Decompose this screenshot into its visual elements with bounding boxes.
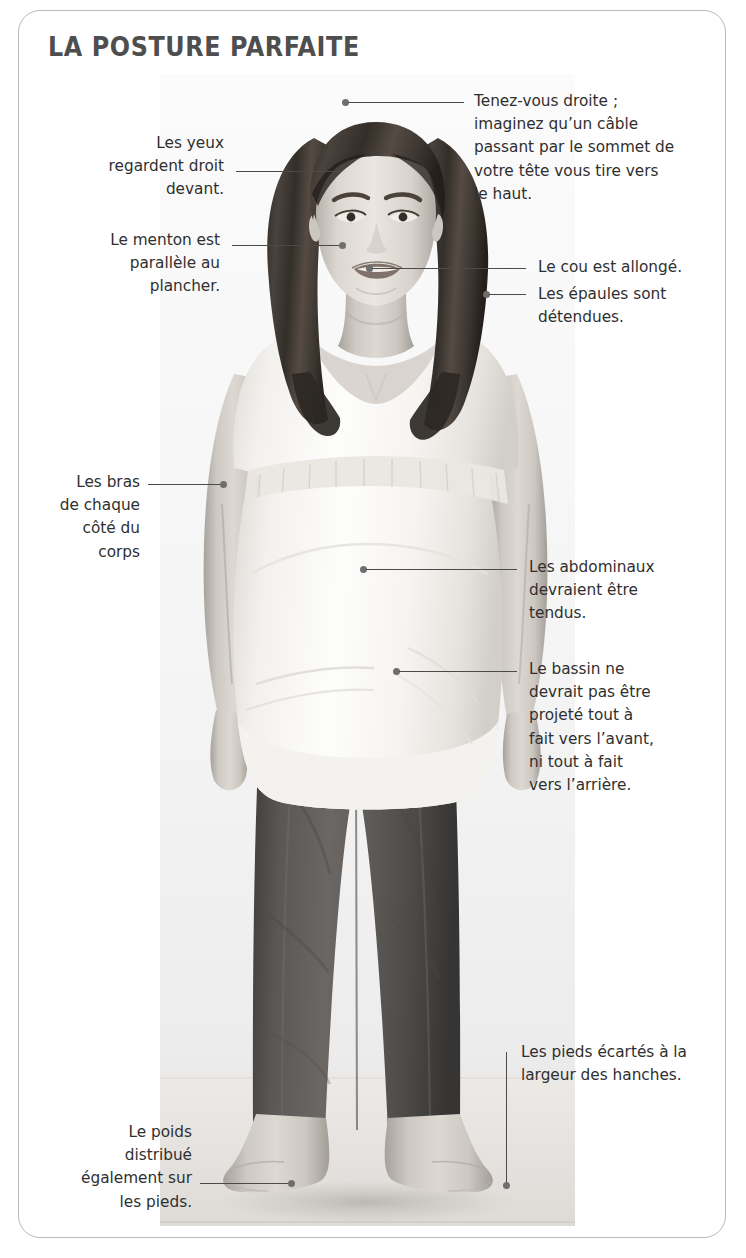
callout-abs: Les abdominaux devraient être tendus. [529,556,719,626]
poster-page: LA POSTURE PARFAITE [0,0,746,1258]
callout-chin: Le menton est parallèle au plancher. [86,229,220,299]
callout-shoulders: Les épaules sont détendues. [538,283,720,329]
leader-line-arms [148,484,224,485]
callout-feet-width: Les pieds écartés à la largeur des hanch… [521,1041,721,1087]
leader-line-feet-width [506,1052,507,1186]
leader-line-head-top [348,102,464,103]
anchor-dot-chin [339,242,346,249]
leader-line-weight [200,1183,292,1184]
posture-photo [160,74,575,1226]
leader-line-abdomen [366,569,517,570]
leader-line-neck [372,268,526,269]
anchor-dot-arm [220,481,227,488]
leader-line-chin [232,245,342,246]
anchor-dot-left-foot [288,1180,295,1187]
leader-line-shoulder [489,294,526,295]
callout-head-top: Tenez-vous droite ; imaginez qu’un câble… [474,90,690,206]
anchor-dot-right-foot [503,1182,510,1189]
callout-pelvis: Le bassin ne devrait pas être projeté to… [529,658,715,797]
callout-neck: Le cou est allongé. [538,256,728,279]
callout-arms: Les bras de chaque côté du corps [44,471,140,564]
callout-weight: Le poids distribué également sur les pie… [60,1121,192,1214]
page-title: LA POSTURE PARFAITE [48,31,360,62]
callout-eyes: Les yeux regardent droit devant. [96,132,224,202]
leader-line-pelvis [399,671,517,672]
leader-line-eyes [236,171,342,172]
